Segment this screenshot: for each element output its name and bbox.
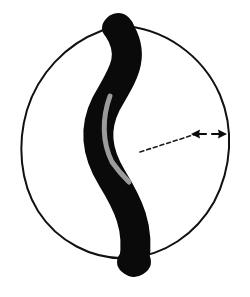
band-top-terminal bbox=[102, 15, 134, 41]
band-bottom-terminal bbox=[117, 248, 151, 276]
dashed-leader-line bbox=[140, 134, 196, 152]
figure-canvas: A hand-drawn circle outline containing a… bbox=[0, 0, 250, 297]
arrow-right-icon bbox=[218, 130, 227, 139]
double-arrow-group bbox=[191, 130, 227, 139]
arrow-left-icon bbox=[191, 130, 200, 139]
dashed-leader-line-group bbox=[140, 134, 196, 152]
diagram-svg: A hand-drawn circle outline containing a… bbox=[0, 0, 250, 297]
